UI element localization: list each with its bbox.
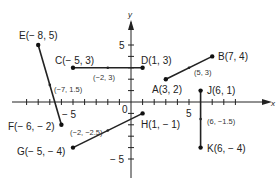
origin-label: 0	[122, 104, 128, 115]
midpoint-gh	[107, 129, 110, 132]
point-c	[71, 66, 75, 70]
point-a	[164, 77, 168, 81]
midpoint-label-gh: (−2, −2.5)	[70, 128, 103, 137]
y-axis	[128, 22, 134, 178]
label-a: A(3, 2)	[152, 84, 182, 95]
x-tick-label-5: 5	[186, 108, 192, 119]
label-g: G(− 5, − 4)	[17, 146, 65, 157]
midpoint-label-cd: (−2, 3)	[93, 73, 115, 82]
label-b: B(7, 4)	[218, 51, 248, 62]
label-e: E(− 8, 5)	[19, 30, 58, 41]
point-d	[140, 66, 144, 70]
point-b	[210, 54, 214, 58]
x-axis-label: x	[270, 99, 276, 108]
midpoint-label-jk: (6, −1.5)	[207, 117, 236, 126]
midpoint-jk	[199, 118, 202, 121]
point-j	[198, 88, 202, 92]
point-g	[71, 145, 75, 149]
point-h	[140, 111, 144, 115]
point-k	[198, 145, 202, 149]
midpoint-label-ef: (−7, 1.5)	[54, 85, 83, 94]
midpoint-label-ab: (5, 3)	[194, 68, 212, 77]
midpoint-ab	[188, 67, 191, 70]
label-j: J(6, 1)	[207, 85, 235, 96]
point-f	[59, 123, 63, 127]
label-k: K(6, − 4)	[207, 143, 246, 154]
coordinate-plane: x y 0 5 − 5 5 − 5 E(− 8, 5) F(− 6, − 2) …	[0, 0, 276, 189]
label-h: H(1, − 1)	[141, 119, 180, 130]
midpoint-ef	[49, 84, 52, 87]
midpoint-cd	[107, 67, 110, 70]
point-e	[36, 43, 40, 47]
y-axis-arrow-icon	[128, 20, 134, 30]
x-tick-label-neg5: − 5	[62, 109, 77, 120]
label-d: D(1, 3)	[141, 55, 172, 66]
y-tick-label-neg5: − 5	[110, 154, 125, 165]
y-axis-label: y	[127, 10, 133, 19]
x-axis	[12, 99, 262, 105]
y-tick-label-5: 5	[119, 40, 125, 51]
label-c: C(− 5, 3)	[55, 55, 94, 66]
label-f: F(− 6, − 2)	[8, 121, 55, 132]
